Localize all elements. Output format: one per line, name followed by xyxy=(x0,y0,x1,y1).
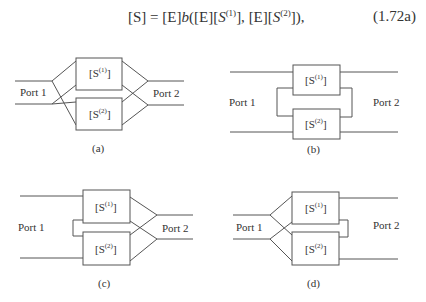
panel-d: Port 1 Port 2 [S(1)] [S(2)] (d) xyxy=(233,192,400,290)
panel-a: Port 1 Port 2 [S(1)] [S(2)] (a) xyxy=(15,58,184,155)
panel-c: Port 1 Port 2 [S(1)] [S(2)] (c) xyxy=(18,190,193,290)
network-diagrams: Port 1 Port 2 [S(1)] [S(2)] (a) Port 1 P… xyxy=(0,0,426,302)
panel-b: Port 1 Port 2 [S(1)] [S(2)] (b) xyxy=(229,65,400,156)
port2-label: Port 2 xyxy=(162,222,189,234)
port1-label: Port 1 xyxy=(236,221,263,233)
port2-label: Port 2 xyxy=(153,87,180,99)
box-s1 xyxy=(76,58,122,90)
caption-b: (b) xyxy=(307,143,320,156)
caption-d: (d) xyxy=(307,277,320,290)
port1-label: Port 1 xyxy=(229,96,256,108)
port1-label: Port 1 xyxy=(18,221,45,233)
port2-label: Port 2 xyxy=(373,219,400,231)
caption-c: (c) xyxy=(98,277,111,290)
caption-a: (a) xyxy=(92,142,105,155)
port2-label: Port 2 xyxy=(373,96,400,108)
port1-label: Port 1 xyxy=(20,86,47,98)
